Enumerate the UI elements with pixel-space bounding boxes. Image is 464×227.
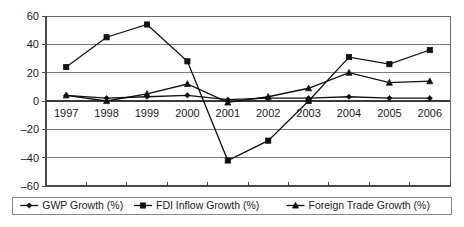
marker-diamond <box>346 94 351 99</box>
x-tick-label: 2006 <box>418 107 442 119</box>
legend-label: FDI Inflow Growth (%) <box>156 199 259 211</box>
x-tick-label: 2001 <box>216 107 240 119</box>
legend-label: Foreign Trade Growth (%) <box>309 199 430 211</box>
x-tick-label: 1998 <box>94 107 118 119</box>
y-tick-label: 60 <box>27 10 39 22</box>
marker-triangle <box>184 81 190 87</box>
marker-square <box>346 54 351 59</box>
marker-square <box>64 64 69 69</box>
y-tick-label: 0 <box>33 95 39 107</box>
marker-diamond <box>387 96 392 101</box>
x-tick-label: 1997 <box>54 107 78 119</box>
marker-square <box>266 138 271 143</box>
marker-square <box>185 59 190 64</box>
y-tick-label: –20 <box>21 123 39 135</box>
series-3 <box>63 69 433 105</box>
line-chart: 6040200–20–40–60 19971998199920002001200… <box>0 0 464 227</box>
y-axis-ticks: 6040200–20–40–60 <box>21 10 46 192</box>
x-tick-label: 2005 <box>377 107 401 119</box>
chart-legend: GWP Growth (%)FDI Inflow Growth (%)Forei… <box>12 197 451 214</box>
marker-diamond <box>427 96 432 101</box>
legend-item-3[interactable]: Foreign Trade Growth (%) <box>287 199 430 211</box>
marker-square <box>427 47 432 52</box>
series-2 <box>64 22 433 163</box>
y-tick-label: 40 <box>27 38 39 50</box>
marker-diamond <box>185 93 190 98</box>
legend-label: GWP Growth (%) <box>42 199 123 211</box>
x-tick-label: 1999 <box>135 107 159 119</box>
x-tick-label: 2002 <box>256 107 280 119</box>
data-series <box>63 22 433 163</box>
chart-canvas: 6040200–20–40–60 19971998199920002001200… <box>0 0 464 227</box>
marker-square <box>144 22 149 27</box>
marker-square <box>104 35 109 40</box>
y-tick-label: –60 <box>21 180 39 192</box>
x-tick-label: 2000 <box>175 107 199 119</box>
series-line <box>66 25 430 161</box>
x-tick-label: 2004 <box>337 107 361 119</box>
x-axis-ticks: 1997199819992000200120022003200420052006 <box>46 107 450 186</box>
marker-square <box>306 98 311 103</box>
marker-square <box>225 158 230 163</box>
y-tick-label: 20 <box>27 67 39 79</box>
marker-square <box>140 203 145 208</box>
marker-square <box>387 62 392 67</box>
y-tick-label: –40 <box>21 152 39 164</box>
